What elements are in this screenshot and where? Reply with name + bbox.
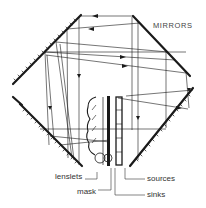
mask — [107, 96, 110, 166]
mirror-lower-right — [130, 88, 193, 166]
mirror-upper-left — [13, 15, 81, 84]
lenslets-label: lenslets — [55, 172, 82, 181]
sources-label: sources — [147, 174, 175, 183]
sources-sinks — [116, 97, 122, 165]
mask-label: mask — [77, 187, 96, 196]
lenslets — [87, 97, 96, 155]
optical-diagram — [0, 0, 206, 208]
lenslet-rays — [92, 105, 96, 143]
mirror-lower-left — [20, 104, 82, 166]
mirrors-label: MIRRORS — [153, 21, 193, 30]
sinks-label: sinks — [147, 190, 165, 199]
